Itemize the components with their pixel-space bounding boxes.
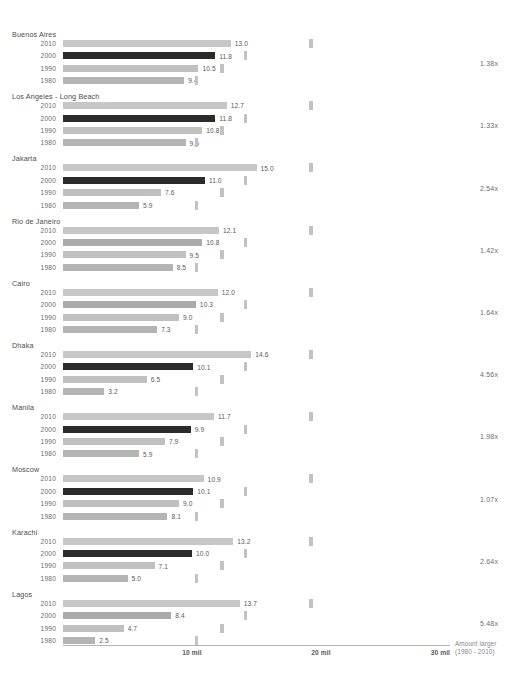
rank-marker-1980 bbox=[195, 449, 198, 458]
bar-value-label: 7.3 bbox=[161, 326, 170, 333]
rank-marker-2000 bbox=[244, 176, 247, 185]
bar-value-label: 8.4 bbox=[175, 612, 184, 619]
bar-value-label: 7.9 bbox=[169, 438, 178, 445]
row-year-label: 1980 bbox=[20, 513, 56, 520]
bar-row: 201011.7 bbox=[0, 412, 531, 421]
bar-value-label: 5.9 bbox=[143, 202, 152, 209]
bar-row: 19805.9 bbox=[0, 201, 531, 210]
bar-row: 20008.4 bbox=[0, 611, 531, 620]
row-year-label: 2000 bbox=[20, 115, 56, 122]
row-year-label: 2010 bbox=[20, 413, 56, 420]
bar-value-label: 14.6 bbox=[255, 351, 268, 358]
bar-moscow-1980 bbox=[63, 513, 167, 520]
rank-marker-1990 bbox=[220, 250, 223, 259]
bar-cairo-1980 bbox=[63, 326, 157, 333]
bar-row: 19808.1 bbox=[0, 512, 531, 521]
rank-marker-1990 bbox=[220, 624, 223, 633]
rank-marker-2010 bbox=[309, 412, 312, 421]
row-year-label: 2000 bbox=[20, 177, 56, 184]
bar-row: 201012.0 bbox=[0, 288, 531, 297]
bar-row: 201013.0 bbox=[0, 39, 531, 48]
bar-lagos-2010 bbox=[63, 600, 240, 607]
bar-value-label: 11.8 bbox=[219, 53, 232, 60]
bar-buenos-aires-1990 bbox=[63, 65, 198, 72]
bar-row: 200011.8 bbox=[0, 114, 531, 123]
population-bar-chart: Buenos Aires201013.0200011.8199010.51980… bbox=[0, 0, 531, 680]
row-year-label: 2000 bbox=[20, 426, 56, 433]
bar-manila-1990 bbox=[63, 438, 165, 445]
city-group: Buenos Aires201013.0200011.8199010.51980… bbox=[0, 30, 531, 89]
bar-row: 200010.1 bbox=[0, 487, 531, 496]
rank-marker-1980 bbox=[195, 325, 198, 334]
city-group: Los Angeles - Long Beach201012.7200011.8… bbox=[0, 92, 531, 151]
rank-marker-2000 bbox=[244, 51, 247, 60]
bar-value-label: 6.5 bbox=[151, 376, 160, 383]
row-year-label: 1990 bbox=[20, 314, 56, 321]
growth-multiplier-label: 1.38x bbox=[480, 60, 498, 67]
rank-marker-2000 bbox=[244, 114, 247, 123]
bar-row: 19805.0 bbox=[0, 574, 531, 583]
bar-value-label: 10.1 bbox=[197, 488, 210, 495]
bar-row: 19907.6 bbox=[0, 188, 531, 197]
bar-row: 201012.7 bbox=[0, 101, 531, 110]
row-year-label: 2010 bbox=[20, 289, 56, 296]
bar-value-label: 12.1 bbox=[223, 227, 236, 234]
bar-moscow-1990 bbox=[63, 500, 179, 507]
bar-row: 201013.2 bbox=[0, 537, 531, 546]
row-year-label: 1990 bbox=[20, 127, 56, 134]
row-year-label: 1990 bbox=[20, 376, 56, 383]
city-name-label: Cairo bbox=[12, 279, 30, 288]
city-name-label: Manila bbox=[12, 403, 34, 412]
bar-value-label: 7.6 bbox=[165, 189, 174, 196]
bar-lagos-1990 bbox=[63, 625, 124, 632]
row-year-label: 2010 bbox=[20, 102, 56, 109]
rank-marker-2000 bbox=[244, 549, 247, 558]
city-name-label: Rio de Janeiro bbox=[12, 217, 60, 226]
city-name-label: Lagos bbox=[12, 590, 32, 599]
row-year-label: 2010 bbox=[20, 600, 56, 607]
city-group: Cairo201012.0200010.319909.019807.31.64x bbox=[0, 279, 531, 338]
growth-multiplier-label: 4.56x bbox=[480, 371, 498, 378]
row-year-label: 1980 bbox=[20, 388, 56, 395]
rank-marker-1990 bbox=[220, 188, 223, 197]
row-year-label: 1980 bbox=[20, 202, 56, 209]
bar-row: 19808.5 bbox=[0, 263, 531, 272]
bar-value-label: 11.7 bbox=[218, 413, 231, 420]
bar-value-label: 12.0 bbox=[222, 289, 235, 296]
row-year-label: 2010 bbox=[20, 227, 56, 234]
bar-value-label: 10.8 bbox=[206, 127, 219, 134]
rank-marker-2000 bbox=[244, 425, 247, 434]
axis-tick-label-10: 10 mil bbox=[176, 649, 208, 656]
bar-value-label: 5.9 bbox=[143, 451, 152, 458]
rank-marker-2000 bbox=[244, 611, 247, 620]
bar-buenos-aires-2010 bbox=[63, 40, 231, 47]
growth-multiplier-label: 1.98x bbox=[480, 433, 498, 440]
bar-row: 199010.5 bbox=[0, 64, 531, 73]
bar-value-label: 2.5 bbox=[99, 637, 108, 644]
bar-row: 19909.5 bbox=[0, 250, 531, 259]
axis-tick-label-20: 20 mil bbox=[305, 649, 337, 656]
row-year-label: 1980 bbox=[20, 264, 56, 271]
bar-row: 201014.6 bbox=[0, 350, 531, 359]
row-year-label: 1980 bbox=[20, 450, 56, 457]
row-year-label: 1980 bbox=[20, 77, 56, 84]
bar-value-label: 11.0 bbox=[209, 177, 222, 184]
bar-row: 19802.5 bbox=[0, 636, 531, 645]
bar-row: 200010.1 bbox=[0, 362, 531, 371]
bar-rio-de-janeiro-1990 bbox=[63, 251, 186, 258]
row-year-label: 1990 bbox=[20, 500, 56, 507]
bar-value-label: 8.1 bbox=[171, 513, 180, 520]
row-year-label: 2000 bbox=[20, 52, 56, 59]
growth-multiplier-label: 2.64x bbox=[480, 558, 498, 565]
city-name-label: Buenos Aires bbox=[12, 30, 56, 39]
rank-marker-1990 bbox=[220, 561, 223, 570]
bar-dhaka-2010 bbox=[63, 351, 251, 358]
annotation-line-2: (1980 - 2010) bbox=[455, 648, 531, 656]
rank-marker-2010 bbox=[309, 163, 312, 172]
bar-moscow-2010 bbox=[63, 475, 204, 482]
bar-value-label: 10.5 bbox=[202, 65, 215, 72]
rank-marker-2000 bbox=[244, 238, 247, 247]
bar-row: 19904.7 bbox=[0, 624, 531, 633]
bar-row: 201010.9 bbox=[0, 474, 531, 483]
city-group: Jakarta201015.0200011.019907.619805.92.5… bbox=[0, 154, 531, 213]
